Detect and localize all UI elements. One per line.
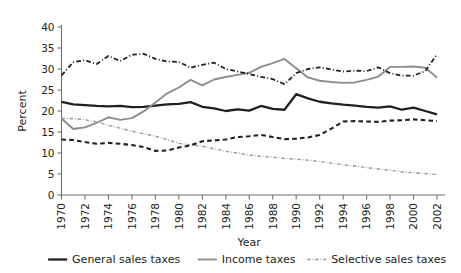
x-axis-title: Year (237, 236, 262, 249)
x-tick-label: 2002 (431, 203, 443, 230)
y-tick-label: 15 (41, 126, 54, 138)
x-tick-label: 1998 (384, 203, 396, 230)
x-tick-label: 1988 (267, 203, 279, 230)
series-line-selective-sales-taxes (62, 119, 438, 175)
series-line-general-sales-taxes (62, 94, 438, 114)
plot-area: 0510152025303540 19701972197419761978198… (41, 21, 445, 230)
y-tick-label: 35 (41, 42, 54, 54)
line-chart: 0510152025303540 19701972197419761978198… (0, 0, 461, 273)
x-tick-label: 1992 (313, 203, 325, 230)
x-tick-label: 1990 (290, 203, 302, 230)
legend-label-selective-sales-taxes: Selective sales taxes (331, 253, 446, 266)
x-tick-label: 1984 (220, 203, 232, 230)
x-tick-label: 1980 (173, 203, 185, 230)
x-tick-label: 1986 (243, 203, 255, 230)
legend-label-income-taxes: Income taxes (222, 253, 296, 266)
x-tick-label: 1972 (79, 203, 91, 230)
x-tick-label: 2000 (407, 203, 419, 230)
data-series-group (62, 54, 438, 175)
series-line-unlabeled-3 (62, 54, 438, 84)
series-line-income-taxes (62, 59, 438, 129)
series-line-unlabeled-4 (62, 119, 438, 150)
x-tick-label: 1996 (360, 203, 372, 230)
y-tick-labels: 0510152025303540 (41, 21, 61, 201)
x-tick-label: 1982 (196, 203, 208, 230)
x-tick-label: 1974 (102, 203, 114, 230)
x-tick-label: 1976 (126, 203, 138, 230)
x-tick-label: 1994 (337, 203, 349, 230)
y-tick-label: 5 (48, 168, 55, 180)
y-tick-label: 10 (41, 147, 54, 159)
x-tick-label: 1978 (149, 203, 161, 230)
x-tick-labels: 1970197219741976197819801982198419861988… (55, 195, 443, 230)
chart-legend: General sales taxesIncome taxesSelective… (48, 253, 446, 266)
y-tick-label: 20 (41, 105, 54, 117)
legend-label-general-sales-taxes: General sales taxes (72, 253, 180, 266)
y-tick-label: 30 (41, 63, 54, 75)
y-tick-label: 25 (41, 84, 54, 96)
y-tick-label: 0 (48, 189, 55, 201)
y-axis-title: Percent (16, 90, 29, 132)
y-tick-label: 40 (41, 21, 54, 33)
x-tick-label: 1970 (55, 203, 67, 230)
